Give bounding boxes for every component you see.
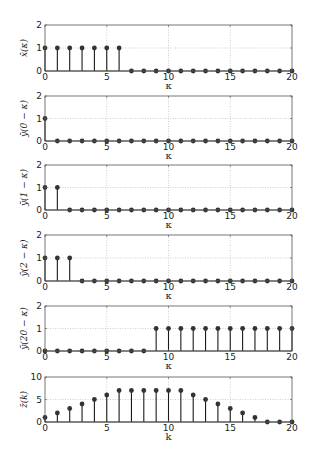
stem-plot-6: 051015200510kz̄(k) [19, 372, 298, 442]
y-tick-label: 1 [36, 324, 42, 334]
x-tick-label: 15 [225, 352, 236, 362]
stem-marker [191, 326, 196, 331]
x-tick-label: 15 [225, 72, 236, 82]
x-tick-label: 20 [286, 423, 298, 433]
x-tick-label: 15 [225, 211, 236, 221]
x-tick-label: 15 [225, 282, 236, 292]
stem-marker [240, 326, 245, 331]
x-tick-label: 0 [42, 72, 48, 82]
y-tick-label: 0 [36, 66, 42, 76]
stem-marker [253, 415, 258, 420]
x-axis-label: κ [165, 360, 172, 371]
stem-plot-4: 05101520012κȳ(2 − κ) [19, 230, 298, 301]
stem-marker [55, 411, 60, 416]
stem-marker [104, 46, 109, 51]
x-tick-label: 15 [225, 142, 236, 152]
y-tick-label: 0 [36, 276, 42, 286]
x-tick-label: 5 [104, 352, 110, 362]
x-tick-label: 20 [286, 142, 298, 152]
x-tick-label: 5 [104, 142, 110, 152]
stem-marker [265, 326, 270, 331]
stem-marker [228, 406, 233, 411]
stem-marker [55, 46, 60, 51]
stem-marker [166, 388, 171, 393]
stem-marker [228, 326, 233, 331]
stem-plot-3: 05101520012κȳ(1 − κ) [19, 160, 298, 230]
stem-marker [67, 46, 72, 51]
stem-marker [104, 393, 109, 398]
stem-marker [55, 185, 60, 190]
x-tick-label: 20 [286, 282, 298, 292]
x-axis-label: k [165, 431, 172, 442]
x-tick-label: 5 [104, 72, 110, 82]
y-tick-label: 0 [36, 417, 42, 427]
y-axis-label: ȳ(20 − κ) [19, 307, 29, 351]
stem-marker [166, 326, 171, 331]
stem-marker [154, 388, 159, 393]
y-axis-label: ȳ(1 − κ) [19, 169, 29, 207]
y-tick-label: 0 [36, 346, 42, 356]
stem-marker [178, 326, 183, 331]
y-tick-label: 2 [36, 230, 42, 240]
stem-marker [216, 326, 221, 331]
x-tick-label: 5 [104, 282, 110, 292]
stem-marker [154, 326, 159, 331]
y-axis-label: ȳ(2 − κ) [19, 239, 29, 277]
stem-plot-1: 05101520012κx̄(κ) [19, 20, 298, 91]
stem-marker [80, 402, 85, 407]
x-tick-label: 0 [42, 423, 48, 433]
y-axis-label: ȳ(0 − κ) [19, 100, 29, 138]
stem-marker [253, 326, 258, 331]
stem-marker [203, 326, 208, 331]
stem-marker [240, 411, 245, 416]
stem-marker [277, 326, 282, 331]
y-tick-label: 0 [36, 136, 42, 146]
y-axis-label: x̄(κ) [19, 39, 29, 57]
x-axis-label: κ [165, 80, 172, 91]
stem-marker [117, 46, 122, 51]
y-tick-label: 1 [36, 253, 42, 263]
x-tick-label: 20 [286, 211, 298, 221]
stem-marker [67, 256, 72, 261]
y-tick-label: 10 [31, 372, 43, 382]
x-tick-label: 20 [286, 352, 298, 362]
stem-marker [191, 393, 196, 398]
stem-marker [178, 388, 183, 393]
y-tick-label: 2 [36, 301, 42, 311]
stem-marker [67, 406, 72, 411]
x-axis-label: κ [165, 219, 172, 230]
x-axis-label: κ [165, 290, 172, 301]
stem-plot-5: 05101520012κȳ(20 − κ) [19, 301, 298, 371]
x-tick-label: 0 [42, 282, 48, 292]
stem-marker [141, 388, 146, 393]
x-tick-label: 5 [104, 423, 110, 433]
y-tick-label: 0 [36, 205, 42, 215]
x-tick-label: 0 [42, 211, 48, 221]
stem-plot-2: 05101520012κȳ(0 − κ) [19, 91, 298, 161]
stem-marker [216, 402, 221, 407]
y-tick-label: 2 [36, 91, 42, 101]
x-tick-label: 20 [286, 72, 298, 82]
stem-marker [92, 397, 97, 402]
x-tick-label: 15 [225, 423, 236, 433]
y-tick-label: 1 [36, 114, 42, 124]
stem-marker [203, 397, 208, 402]
stem-marker [55, 256, 60, 261]
y-tick-label: 2 [36, 160, 42, 170]
x-tick-label: 5 [104, 211, 110, 221]
stem-marker [117, 388, 122, 393]
x-axis-label: κ [165, 150, 172, 161]
y-tick-label: 2 [36, 20, 42, 30]
stem-marker [129, 388, 134, 393]
y-axis-label: z̄(k) [19, 390, 29, 409]
x-tick-label: 0 [42, 352, 48, 362]
y-tick-label: 5 [36, 395, 42, 405]
stem-marker [80, 46, 85, 51]
y-tick-label: 1 [36, 183, 42, 193]
x-tick-label: 0 [42, 142, 48, 152]
y-tick-label: 1 [36, 43, 42, 53]
stem-plot-figure: 05101520012κx̄(κ)05101520012κȳ(0 − κ)051… [0, 0, 312, 465]
stem-marker [92, 46, 97, 51]
